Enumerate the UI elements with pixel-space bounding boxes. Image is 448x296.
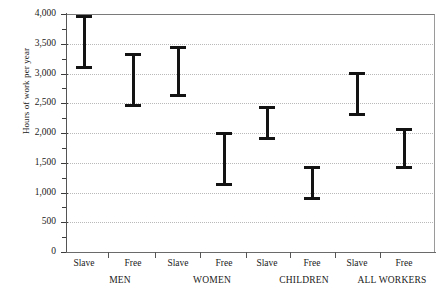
y-axis-tick-label: 0 <box>8 247 56 257</box>
error-bar-cap-upper <box>304 166 320 169</box>
error-bar-cap-upper <box>76 15 92 18</box>
y-axis-tick-label: 500 <box>8 217 56 227</box>
plot-area <box>67 14 435 252</box>
error-bar-cap-lower <box>349 113 365 116</box>
error-bar-cap-upper <box>216 132 232 135</box>
error-bar-cap-upper <box>259 106 275 109</box>
y-axis-tick-label: 2,500 <box>8 98 56 108</box>
error-bar-stem <box>177 46 180 98</box>
error-bar-stem <box>132 53 135 107</box>
error-bar-cap-upper <box>125 53 141 56</box>
x-axis-group-label: ALL WORKERS <box>322 275 448 286</box>
error-bar-stem <box>356 72 359 115</box>
error-bar-cap-lower <box>76 66 92 69</box>
error-bar-cap-lower <box>396 166 412 169</box>
x-axis-tick-label: Free <box>372 258 436 269</box>
chart-root: Hours of work per year 4,0003,5003,0002,… <box>0 0 448 296</box>
error-bar-stem <box>403 128 406 169</box>
y-axis-tick-label: 4,000 <box>8 9 56 19</box>
error-bar-cap-lower <box>216 183 232 186</box>
error-bar-stem <box>311 166 314 201</box>
y-axis-tick-label: 3,500 <box>8 39 56 49</box>
error-bar-cap-upper <box>396 128 412 131</box>
y-axis-tick-label: 2,000 <box>8 128 56 138</box>
error-bar-stem <box>223 132 226 186</box>
error-bar-cap-upper <box>170 46 186 49</box>
error-bar-cap-lower <box>125 104 141 107</box>
error-bar-stem <box>83 15 86 69</box>
error-bar-cap-lower <box>170 94 186 97</box>
y-axis-tick-label: 3,000 <box>8 69 56 79</box>
error-bar-stem <box>266 106 269 140</box>
y-axis-tick-label: 1,500 <box>8 158 56 168</box>
error-bar-cap-upper <box>349 72 365 75</box>
error-bar-cap-lower <box>259 137 275 140</box>
y-axis-tick-label: 1,000 <box>8 188 56 198</box>
error-bar-cap-lower <box>304 197 320 200</box>
